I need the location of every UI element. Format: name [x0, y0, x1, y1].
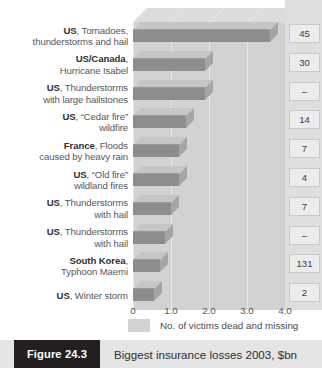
bar — [133, 80, 213, 100]
bar-front-face — [133, 144, 179, 157]
category-label: US/Canada,Hurricane Isabel — [0, 53, 128, 76]
category-label: US, Thunderstormswith hail — [0, 226, 128, 249]
category-label: US, “Old fire”wildland fires — [0, 169, 128, 192]
victims-column: 4530–14747–1312 — [285, 0, 322, 310]
victims-value-box: 45 — [289, 24, 320, 43]
x-axis-tick: 3.0 — [240, 305, 254, 316]
x-axis-tick: 4.0 — [278, 305, 292, 316]
figure-number-tag: Figure 24.3 — [14, 340, 100, 368]
bar — [133, 137, 187, 157]
bar-front-face — [133, 58, 205, 71]
victims-value-box: – — [289, 82, 320, 101]
bar-front-face — [133, 87, 205, 100]
bar — [133, 51, 213, 71]
victims-value-box: 7 — [289, 197, 320, 216]
gridline-3-0 — [247, 22, 248, 310]
bar — [133, 195, 179, 215]
category-label: US, Thunderstormswith hail — [0, 197, 128, 220]
victims-value-box: 4 — [289, 168, 320, 187]
bar — [133, 166, 187, 186]
category-label: South Korea,Typhoon Maemi — [0, 255, 128, 278]
bar-front-face — [133, 173, 179, 186]
legend-label: No. of victims dead and missing — [160, 319, 298, 332]
legend-swatch-icon — [128, 319, 150, 332]
bar — [133, 252, 168, 272]
bar-front-face — [133, 231, 165, 244]
bar — [133, 22, 278, 42]
figure-title: Biggest insurance losses 2003, $bn — [114, 340, 297, 368]
x-axis-tick: 0 — [130, 305, 135, 316]
bar — [133, 281, 162, 301]
category-label: US, Tornadoes,thunderstorms and hail — [0, 25, 128, 48]
bar-front-face — [133, 202, 171, 215]
bar-front-face — [133, 29, 270, 42]
victims-value-box: – — [289, 226, 320, 245]
chart-area: US, Tornadoes,thunderstorms and hailUS/C… — [0, 0, 322, 322]
bar — [133, 108, 194, 128]
bar-front-face — [133, 259, 160, 272]
victims-value-box: 14 — [289, 110, 320, 129]
figure-caption-bar: Figure 24.3 Biggest insurance losses 200… — [0, 340, 322, 368]
bar — [133, 224, 173, 244]
victims-value-box: 7 — [289, 139, 320, 158]
victims-value-box: 131 — [289, 254, 320, 273]
victims-value-box: 2 — [289, 283, 320, 302]
victims-value-box: 30 — [289, 53, 320, 72]
category-label: France, Floodscaused by heavy rain — [0, 140, 128, 163]
category-label: US, “Cedar fire”wildfire — [0, 111, 128, 134]
category-labels: US, Tornadoes,thunderstorms and hailUS/C… — [0, 0, 128, 310]
category-label: US, Winter storm — [0, 290, 128, 301]
x-axis-tick: 2.0 — [202, 305, 216, 316]
category-label: US, Thunderstormswith large hailstones — [0, 82, 128, 105]
bar-front-face — [133, 288, 154, 301]
legend: No. of victims dead and missing — [0, 319, 322, 335]
x-axis-tick: 1.0 — [164, 305, 178, 316]
bar-front-face — [133, 115, 186, 128]
